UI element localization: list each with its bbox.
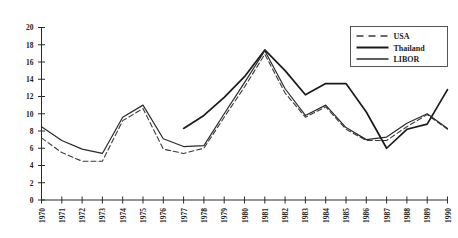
x-tick-label: 1985 xyxy=(342,208,351,223)
x-tick-label: 1978 xyxy=(200,208,209,223)
x-tick-label: 1986 xyxy=(362,208,371,223)
x-tick-label: 1979 xyxy=(220,208,229,223)
chart-container: 0246810121416182019701971197219731974197… xyxy=(0,0,458,238)
y-tick-label: 12 xyxy=(26,92,34,101)
y-tick-label: 20 xyxy=(26,23,34,32)
x-tick-label: 1990 xyxy=(444,208,453,223)
x-tick-label: 1981 xyxy=(261,208,270,223)
y-tick-label: 0 xyxy=(30,196,34,205)
y-tick-label: 6 xyxy=(30,144,34,153)
legend-label-thailand: Thailand xyxy=(394,44,426,53)
y-tick-label: 8 xyxy=(30,127,34,136)
x-tick-label: 1984 xyxy=(322,208,331,223)
y-tick-label: 10 xyxy=(26,110,34,119)
x-tick-label: 1973 xyxy=(98,208,107,223)
x-tick-label: 1987 xyxy=(383,208,392,223)
x-tick-label: 1989 xyxy=(423,208,432,223)
x-tick-label: 1982 xyxy=(281,208,290,223)
x-tick-label: 1977 xyxy=(180,208,189,223)
legend-label-libor: LIBOR xyxy=(394,55,420,64)
x-tick-label: 1975 xyxy=(139,208,148,223)
y-tick-label: 2 xyxy=(30,179,34,188)
y-axis-ticks: 02468101214161820 xyxy=(26,23,45,205)
x-tick-label: 1970 xyxy=(38,208,47,223)
x-tick-label: 1976 xyxy=(159,208,168,223)
x-tick-label: 1980 xyxy=(241,208,250,223)
y-tick-label: 4 xyxy=(30,161,34,170)
legend: USAThailandLIBOR xyxy=(351,27,448,67)
x-tick-label: 1971 xyxy=(58,208,67,223)
line-chart: 0246810121416182019701971197219731974197… xyxy=(0,0,458,238)
series-line-usa xyxy=(42,54,448,161)
y-tick-label: 18 xyxy=(26,41,34,50)
x-tick-label: 1988 xyxy=(403,208,412,223)
legend-label-usa: USA xyxy=(394,32,410,41)
x-tick-label: 1983 xyxy=(301,208,310,223)
y-tick-label: 16 xyxy=(26,58,34,67)
x-tick-label: 1974 xyxy=(119,208,128,223)
x-tick-label: 1972 xyxy=(78,208,87,223)
y-tick-label: 14 xyxy=(26,75,34,84)
